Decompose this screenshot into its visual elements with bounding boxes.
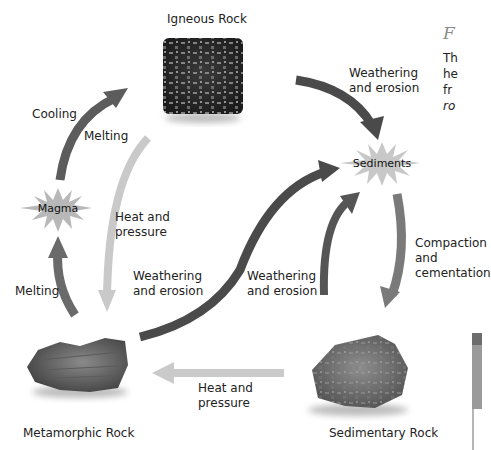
label-heat-mid-2: pressure <box>115 225 167 240</box>
arrow-compaction <box>380 194 401 308</box>
igneous-rock-label: Igneous Rock <box>167 12 247 27</box>
label-heat-bottom-2: pressure <box>198 396 250 411</box>
magma-label: Magma <box>33 202 83 215</box>
label-compaction-1: Compaction <box>415 236 487 251</box>
metamorphic-rock-label: Metamorphic Rock <box>23 426 134 441</box>
label-weathering-mid-1: Weathering <box>133 269 202 284</box>
caption-line-2: he <box>443 66 458 82</box>
label-heat-bottom-1: Heat and <box>198 381 253 396</box>
caption-line-1: Th <box>443 50 458 66</box>
figure-caption-title: F <box>443 23 455 43</box>
label-compaction-2: and <box>415 251 438 266</box>
arrow-weathering-sedimentary-to-sediments <box>324 192 360 295</box>
arrow-weathering-metamorphic-to-sediments <box>140 160 340 337</box>
igneous-rock-image <box>163 38 243 123</box>
sediments-label: Sediments <box>352 157 412 170</box>
label-weathering-right-1: Weathering <box>247 269 316 284</box>
caption-line-4: ro <box>443 98 455 114</box>
label-weathering-top-2: and erosion <box>349 81 419 96</box>
label-weathering-mid-2: and erosion <box>133 284 203 299</box>
sedimentary-rock-image <box>308 335 408 416</box>
label-weathering-right-2: and erosion <box>247 284 317 299</box>
label-melting-top: Melting <box>84 129 128 144</box>
cropped-sidebar-box <box>472 333 482 450</box>
label-weathering-top-1: Weathering <box>349 66 418 81</box>
label-heat-mid-1: Heat and <box>115 210 170 225</box>
label-cooling: Cooling <box>32 107 77 122</box>
arrow-melting-metamorphic-to-magma <box>48 236 75 315</box>
label-melting-left: Melting <box>15 284 59 299</box>
label-compaction-3: cementation <box>415 266 491 281</box>
caption-line-3: fr <box>443 82 452 98</box>
sidebar-box-body <box>472 345 482 409</box>
sedimentary-rock-label: Sedimentary Rock <box>329 426 438 441</box>
sidebar-box-rule <box>472 409 474 450</box>
sidebar-box-header <box>472 333 482 345</box>
metamorphic-rock-image <box>27 338 128 398</box>
